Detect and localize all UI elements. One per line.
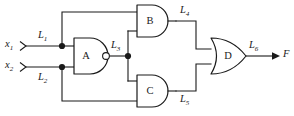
signal-label-l5: L5 <box>180 94 189 107</box>
input-label-x1: x1 <box>5 39 13 52</box>
signal-label-l6: L6 <box>249 40 258 53</box>
wire-l5-to-gateD <box>176 64 211 91</box>
gate-A-letter: A <box>82 50 90 61</box>
gate-C-and: C <box>137 75 168 107</box>
output-arrowhead-icon <box>272 52 280 60</box>
wire-l4-to-gateD <box>176 21 211 49</box>
gate-B-and: B <box>137 5 168 37</box>
gate-D-or: D <box>211 38 246 74</box>
gate-A-nand: A <box>74 38 109 74</box>
circuit-canvas: A B C D <box>0 0 294 116</box>
signal-label-l4: L4 <box>180 5 189 18</box>
junction-dot-l1 <box>59 43 65 49</box>
junction-dot-l2 <box>59 64 65 70</box>
x2-terminal-marker-icon <box>20 63 26 72</box>
wire-l2-to-gateC <box>62 67 137 101</box>
logic-circuit-diagram: A B C D x1 x2 L1 L2 L3 L4 L5 L6 F <box>0 0 294 116</box>
signal-label-l3: L3 <box>111 40 120 53</box>
gate-B-letter: B <box>146 15 153 26</box>
signal-label-l2: L2 <box>38 72 47 85</box>
junction-dot-l3 <box>125 53 131 59</box>
output-label-f: F <box>283 49 289 60</box>
gate-C-letter: C <box>146 85 153 96</box>
input-label-x2: x2 <box>5 60 13 73</box>
x1-terminal-marker-icon <box>20 42 26 51</box>
signal-label-l1: L1 <box>38 30 47 43</box>
gate-A-inversion-bubble-icon <box>103 53 110 60</box>
gate-D-letter: D <box>224 50 232 61</box>
